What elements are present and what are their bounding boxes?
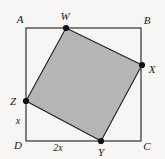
geometry-canvas [0,0,165,159]
label-vertex-b: B [144,15,151,26]
vertex-dot-y [98,138,104,144]
dimension-label-zd: x [16,116,20,126]
inner-quadrilateral-wxyz [26,28,142,141]
vertex-dot-z [23,98,29,104]
label-vertex-w: W [60,11,69,22]
label-vertex-x: X [149,64,156,75]
label-vertex-c: C [143,141,150,152]
label-vertex-y: Y [98,147,104,158]
label-vertex-z: Z [10,96,16,107]
vertex-dot-w [63,25,69,31]
geometry-figure: A B C D W X Y Z x 2x [0,0,165,159]
label-vertex-d: D [14,140,22,151]
dimension-label-dy: 2x [53,143,62,153]
vertex-dot-x [139,62,145,68]
label-vertex-a: A [17,14,24,25]
